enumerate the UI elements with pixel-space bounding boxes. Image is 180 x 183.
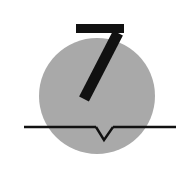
symbol-canvas — [0, 0, 180, 183]
gray-disc — [39, 38, 155, 154]
numeral-seven-top-bar — [76, 24, 124, 33]
figure-root: 7 Gray filled circle overlaid with the n… — [0, 0, 180, 183]
